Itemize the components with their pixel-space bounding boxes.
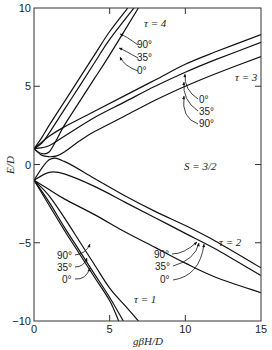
y-tick-label: 10 — [19, 2, 31, 14]
angle-label-tau1-0: 0° — [62, 274, 72, 285]
y-tick-label: 5 — [25, 80, 31, 92]
x-tick-label: 15 — [255, 323, 267, 335]
y-tick-label: −5 — [18, 237, 31, 249]
series-line-tau4-90deg — [34, 8, 128, 149]
label-tau-2: τ = 2 — [219, 236, 242, 248]
angle-label-tau1-90: 90° — [57, 250, 72, 261]
y-tick-label: 0 — [25, 159, 31, 171]
angle-label-tau2-35: 35° — [155, 261, 170, 272]
angle-label-tau4-0: 0° — [137, 65, 147, 76]
x-tick-label: 5 — [107, 323, 113, 335]
x-tick-label: 0 — [31, 323, 37, 335]
angle-label-tau3-35: 35° — [199, 106, 214, 117]
label-tau-4: τ = 4 — [144, 17, 167, 29]
label-spin: S = 3/2 — [184, 160, 217, 172]
angle-label-tau2-90: 90° — [154, 249, 169, 260]
label-tau-1: τ = 1 — [134, 293, 156, 305]
angle-label-tau4-35: 35° — [137, 52, 152, 63]
energy-level-chart: 051015−10−50510 τ = 4τ = 3τ = 2τ = 1S = … — [0, 0, 272, 350]
angle-label-tau2-0: 0° — [160, 274, 170, 285]
angle-label-tau3-90: 90° — [199, 118, 214, 129]
series-line-tau1-90deg — [34, 180, 119, 321]
y-tick-label: −10 — [12, 315, 31, 327]
y-axis-label: E/D — [4, 156, 16, 175]
x-tick-label: 10 — [179, 323, 191, 335]
label-tau-3: τ = 3 — [235, 71, 258, 83]
x-axis-label: gβH/D — [133, 335, 163, 347]
series-line-tau4-35deg — [34, 8, 134, 149]
angle-label-tau1-35: 35° — [57, 262, 72, 273]
angle-label-tau4-90: 90° — [137, 39, 152, 50]
series-line-tau3-90deg — [34, 57, 261, 157]
angle-label-tau3-0: 0° — [199, 94, 209, 105]
